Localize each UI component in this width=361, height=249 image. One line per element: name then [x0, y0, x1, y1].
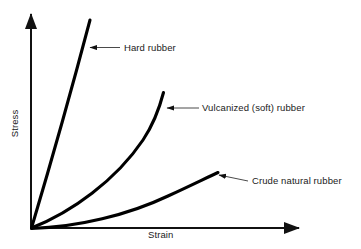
annotation-label-hard-rubber: Hard rubber	[124, 42, 176, 53]
curve-hard-rubber	[32, 20, 91, 228]
leader-line-crude	[219, 175, 248, 181]
annotation-label-crude-natural-rubber: Crude natural rubber	[252, 175, 342, 186]
annotation-label-vulcanized-rubber: Vulcanized (soft) rubber	[202, 102, 305, 113]
y-axis-label: Stress	[9, 102, 20, 146]
curve-crude-natural-rubber	[32, 173, 219, 229]
stress-strain-figure: Hard rubber Vulcanized (soft) rubber Cru…	[0, 0, 361, 249]
plot-canvas	[0, 0, 361, 249]
x-axis-label: Strain	[148, 229, 173, 240]
